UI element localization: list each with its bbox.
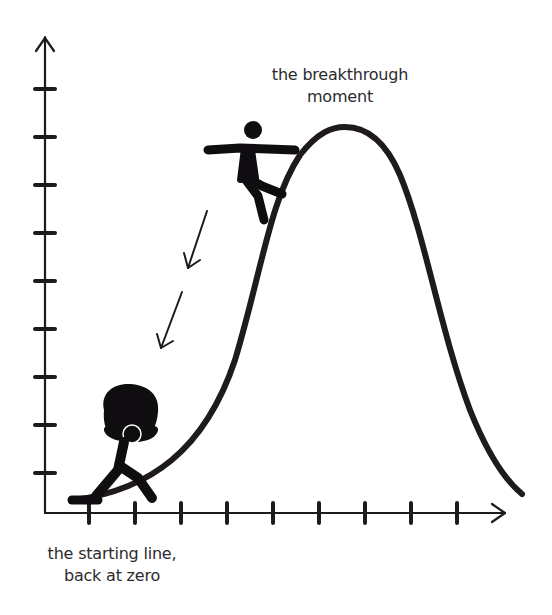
breakthrough-label: the breakthrough moment [240, 64, 440, 108]
breakthrough-label-line1: the breakthrough [240, 64, 440, 86]
starting-line-label-line2: back at zero [22, 565, 202, 587]
down-left-arrow-icon [184, 211, 207, 268]
climber-head [244, 121, 262, 139]
starting-line-label: the starting line, back at zero [22, 543, 202, 587]
climbing-figure [208, 121, 295, 220]
fall-arrows [157, 211, 207, 348]
breakthrough-curve [74, 127, 522, 500]
starting-line-label-line1: the starting line, [22, 543, 202, 565]
down-left-arrow-icon [157, 292, 182, 348]
breakthrough-label-line2: moment [240, 86, 440, 108]
slumped-leg [120, 466, 152, 498]
slumped-figure [72, 384, 158, 500]
x-axis [45, 503, 505, 523]
y-axis [35, 37, 55, 513]
